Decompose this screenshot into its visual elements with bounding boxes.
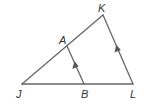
point-label-l: L (130, 89, 136, 100)
segment-jk (22, 15, 103, 84)
point-label-a: A (59, 35, 66, 46)
parallel-arrow-icon-ab (72, 61, 78, 69)
parallel-arrow-icon-kl (115, 45, 121, 53)
triangle-diagram: K A J B L (0, 0, 145, 106)
point-label-j: J (16, 89, 22, 100)
point-label-b: B (81, 89, 88, 100)
point-label-k: K (98, 3, 105, 14)
